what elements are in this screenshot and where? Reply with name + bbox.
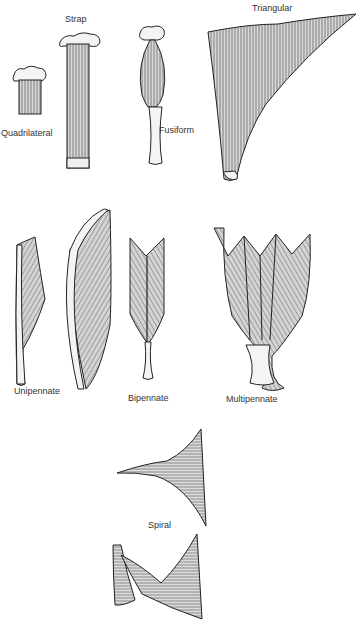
spiral-muscle-bottom	[113, 534, 202, 619]
label-unipennate: Unipennate	[14, 386, 60, 396]
strap-muscle	[60, 33, 101, 168]
unipennate-muscle-small	[16, 237, 45, 386]
fusiform-muscle	[140, 26, 165, 165]
quadrilateral-muscle	[13, 66, 46, 114]
label-fusiform: Fusiform	[159, 125, 194, 135]
unipennate-muscle-large	[66, 209, 111, 389]
multipennate-muscle	[214, 228, 310, 391]
bipennate-muscle	[130, 238, 164, 380]
label-multipennate: Multipennate	[226, 394, 278, 404]
label-bipennate: Bipennate	[128, 393, 169, 403]
label-quadrilateral: Quadrilateral	[1, 128, 53, 138]
label-triangular: Triangular	[252, 3, 292, 13]
muscle-shapes-diagram	[0, 0, 364, 626]
spiral-muscle-top	[117, 429, 206, 526]
label-strap: Strap	[65, 14, 87, 24]
label-spiral: Spiral	[148, 520, 171, 530]
triangular-muscle	[208, 14, 356, 181]
